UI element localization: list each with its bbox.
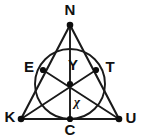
cevian-K-T — [21, 70, 96, 119]
geometry-canvas: N K U E T C Y χ — [0, 0, 144, 139]
vertex-dot-K — [18, 116, 25, 123]
touch-label-E: E — [24, 58, 34, 75]
touch-dot-E — [40, 67, 46, 73]
touch-dot-T — [93, 67, 99, 73]
geometry-figure: N K U E T C Y χ — [0, 0, 144, 139]
touch-label-T: T — [105, 58, 114, 75]
vertex-label-U: U — [126, 109, 137, 126]
interior-label-Y: Y — [68, 56, 78, 73]
incenter-dot — [67, 81, 73, 87]
vertex-dot-U — [116, 116, 123, 123]
vertex-dot-N — [67, 22, 74, 29]
vertex-label-N: N — [65, 1, 76, 18]
angle-label-x: χ — [72, 94, 81, 109]
vertex-label-K: K — [5, 108, 16, 125]
cevian-U-E — [43, 70, 119, 119]
touch-label-C: C — [65, 121, 76, 138]
